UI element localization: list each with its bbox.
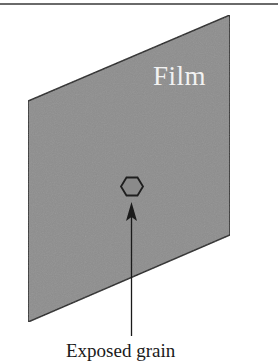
exposed-grain-label: Exposed grain <box>66 341 175 360</box>
exposed-grain-hexagon-icon <box>121 178 143 196</box>
film-label: Film <box>153 63 206 90</box>
